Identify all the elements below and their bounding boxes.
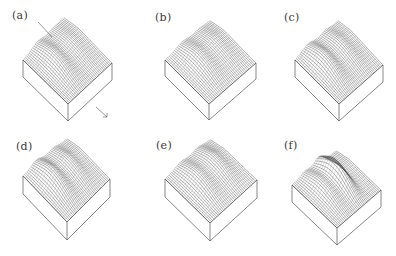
surface-plot-f <box>0 0 396 256</box>
